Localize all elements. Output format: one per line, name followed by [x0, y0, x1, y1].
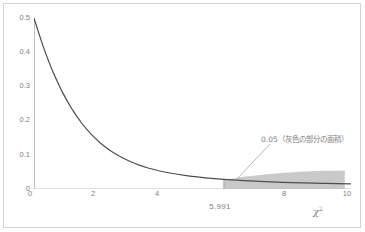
x-axis-tick-labels: 0 2 4 8 10 5.991	[0, 0, 365, 232]
x-tick-label-4: 4	[155, 190, 159, 198]
x-axis-title: χ2	[313, 203, 323, 217]
x-tick-label-2: 2	[91, 190, 95, 198]
x-tick-label-8: 8	[282, 190, 286, 198]
x-tick-label-10: 10	[343, 190, 351, 198]
chart-screenshot: 0.5 0.4 0.3 0.2 0.1 0 0 2 4 8 10 5.991 χ…	[0, 0, 365, 232]
x-tick-label-0: 0	[28, 190, 32, 198]
critical-value-label: 5.991	[209, 202, 231, 211]
area-annotation-label: 0.05（灰色の部分の面積）	[261, 135, 348, 144]
x-axis-title-superscript: 2	[319, 205, 323, 212]
